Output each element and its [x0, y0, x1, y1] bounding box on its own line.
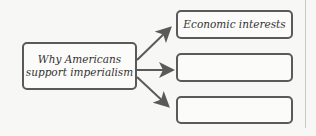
page-divider	[305, 0, 306, 128]
branch-label-1: Economic interests	[183, 18, 285, 31]
arrow-to-branch-1	[137, 29, 169, 60]
center-node: Why Americans support imperialism	[22, 42, 137, 90]
center-label-line1: Why Americans	[26, 53, 133, 66]
arrow-to-branch-3	[137, 77, 167, 105]
branch-node-3[interactable]	[176, 96, 293, 124]
branch-node-2[interactable]	[176, 53, 293, 82]
center-label-line2: support imperialism	[26, 66, 133, 79]
branch-node-1: Economic interests	[176, 10, 293, 39]
